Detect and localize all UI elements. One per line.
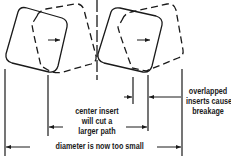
center-insert-label: center insert will cut a larger path (71, 106, 124, 136)
diameter-label: diameter is now too small (56, 141, 141, 151)
label-line: larger path (71, 126, 124, 136)
label-line: overlapped (186, 86, 230, 96)
label-line: breakage (186, 106, 230, 116)
overlapped-label: overlapped inserts cause breakage (186, 86, 230, 116)
label-line: center insert (71, 106, 124, 116)
center-insert-dashed (118, 4, 183, 71)
label-line: will cut a (71, 116, 124, 126)
label-line: inserts cause (186, 96, 230, 106)
